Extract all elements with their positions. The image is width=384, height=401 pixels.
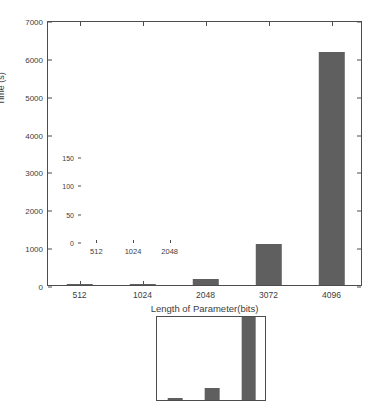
bar <box>129 284 155 285</box>
inset-y-tick-label: 100 <box>62 183 74 190</box>
x-tick-label: 1024 <box>133 290 152 300</box>
y-tick-mark-right <box>357 287 361 288</box>
y-tick-mark <box>48 135 52 136</box>
bar <box>66 284 92 285</box>
y-tick-mark-right <box>357 97 361 98</box>
y-tick-mark-right <box>357 173 361 174</box>
bar <box>318 52 344 285</box>
inset-chart: 050100150 51210242048 <box>78 158 188 243</box>
bar <box>192 279 218 285</box>
x-tick-mark-top <box>332 22 333 26</box>
y-axis-label: Time (s) <box>0 72 6 105</box>
inset-bar <box>241 316 256 400</box>
x-tick-mark-top <box>206 22 207 26</box>
y-tick-mark <box>48 22 52 23</box>
y-tick-mark <box>48 211 52 212</box>
y-tick-label: 6000 <box>25 55 43 64</box>
x-tick-label: 512 <box>72 290 86 300</box>
x-tick-label: 2048 <box>196 290 215 300</box>
x-tick-mark-top <box>269 22 270 26</box>
y-tick-label: 1000 <box>25 245 43 254</box>
inset-x-tick-label: 512 <box>90 247 103 256</box>
y-tick-mark-right <box>357 249 361 250</box>
inset-x-tick-mark <box>96 240 97 243</box>
inset-y-tick-label: 50 <box>66 211 74 218</box>
inset-x-tick-label: 2048 <box>161 247 178 256</box>
inset-y-tick-label: 150 <box>62 155 74 162</box>
x-tick-mark-top <box>143 22 144 26</box>
inset-y-tick-mark <box>78 243 81 244</box>
y-tick-mark <box>48 287 52 288</box>
y-tick-label: 2000 <box>25 207 43 216</box>
y-tick-label: 4000 <box>25 131 43 140</box>
inset-bar <box>205 388 220 400</box>
inset-x-tick-mark <box>170 240 171 243</box>
y-tick-mark <box>48 249 52 250</box>
x-axis-label: Length of Parameter(bits) <box>47 303 362 314</box>
inset-y-tick-label: 0 <box>70 240 74 247</box>
y-tick-mark <box>48 59 52 60</box>
y-tick-mark <box>48 173 52 174</box>
y-tick-label: 7000 <box>25 18 43 27</box>
y-tick-mark-right <box>357 135 361 136</box>
inset-y-tick-mark <box>78 186 81 187</box>
y-tick-mark <box>48 97 52 98</box>
inset-y-tick-mark <box>78 214 81 215</box>
y-tick-label: 3000 <box>25 169 43 178</box>
x-tick-label: 4096 <box>322 290 341 300</box>
bar <box>255 244 281 285</box>
y-tick-mark-right <box>357 211 361 212</box>
y-tick-mark-right <box>357 59 361 60</box>
inset-plot-area <box>156 316 266 401</box>
x-tick-mark-top <box>80 22 81 26</box>
y-tick-mark-right <box>357 22 361 23</box>
inset-x-tick-mark <box>133 240 134 243</box>
x-tick-label: 3072 <box>259 290 278 300</box>
inset-y-tick-mark <box>78 158 81 159</box>
y-tick-label: 5000 <box>25 93 43 102</box>
inset-bar <box>168 398 183 400</box>
y-tick-label: 0 <box>39 283 43 292</box>
inset-x-tick-label: 1024 <box>125 247 142 256</box>
